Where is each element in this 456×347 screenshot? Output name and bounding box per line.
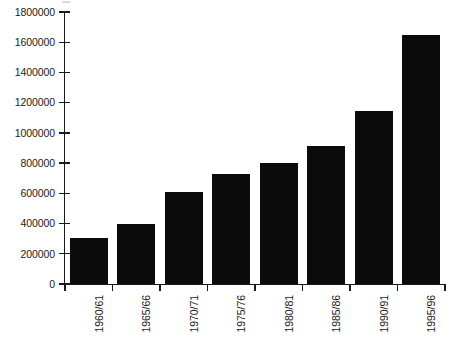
- y-tick-label: 600000: [21, 188, 55, 199]
- bar: [355, 111, 393, 284]
- x-tick-label: 1985/86: [331, 295, 342, 333]
- x-tick-label: 1975/76: [236, 295, 247, 333]
- x-tick: [444, 284, 445, 291]
- x-tick-label: 1995/96: [426, 295, 437, 333]
- y-tick-400000: [59, 223, 70, 224]
- x-tick: [397, 284, 398, 291]
- y-tick-label: 400000: [21, 218, 55, 229]
- x-tick: [302, 284, 303, 291]
- bar: [212, 174, 250, 284]
- bar: [402, 35, 440, 284]
- y-tick-label: 200000: [21, 249, 55, 260]
- x-tick-label: 1960/61: [94, 295, 105, 333]
- x-tick: [159, 284, 160, 291]
- x-tick: [349, 284, 350, 291]
- x-tick-label: 1965/66: [141, 295, 152, 333]
- x-tick: [254, 284, 255, 291]
- y-tick-1800000: [59, 11, 70, 12]
- bar: [307, 146, 345, 284]
- bar: [165, 192, 203, 284]
- y-tick-label: 1800000: [15, 7, 55, 18]
- x-tick-label: 1970/71: [189, 295, 200, 333]
- y-tick-1000000: [59, 132, 70, 133]
- scan-artifact: [62, 1, 70, 3]
- y-tick-1200000: [59, 102, 70, 103]
- y-tick-label: 0: [49, 279, 55, 290]
- x-tick-label: 1980/81: [284, 295, 295, 333]
- y-axis-line: [64, 11, 65, 285]
- bar: [260, 163, 298, 284]
- y-tick-600000: [59, 193, 70, 194]
- y-tick-label: 1200000: [15, 97, 55, 108]
- bar: [117, 224, 155, 284]
- x-tick-label: 1990/91: [379, 295, 390, 333]
- x-tick: [207, 284, 208, 291]
- y-tick-200000: [59, 253, 70, 254]
- y-tick-label: 1000000: [15, 128, 55, 139]
- y-tick-1600000: [59, 42, 70, 43]
- y-tick-800000: [59, 162, 70, 163]
- y-tick-label: 800000: [21, 158, 55, 169]
- y-tick-label: 1400000: [15, 67, 55, 78]
- bar-chart: 0200000400000600000800000100000012000001…: [0, 0, 456, 347]
- bar: [70, 238, 108, 284]
- x-tick: [64, 284, 65, 291]
- y-tick-label: 1600000: [15, 37, 55, 48]
- x-tick: [112, 284, 113, 291]
- y-tick-1400000: [59, 72, 70, 73]
